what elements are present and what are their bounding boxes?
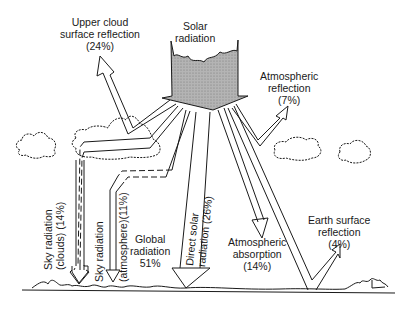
label-line: radiation bbox=[175, 32, 215, 44]
label-line: (7%) bbox=[260, 94, 318, 106]
cloud-left bbox=[16, 132, 55, 158]
sky-radiation-label: Sky radiation bbox=[93, 221, 105, 282]
label-line: Atmospheric bbox=[260, 70, 318, 82]
upper-cloud-reflection-label: Upper cloud surface reflection (24%) bbox=[60, 16, 140, 52]
label-line: Atmospheric bbox=[228, 236, 286, 248]
label-line: (clouds) (14%) bbox=[54, 202, 66, 270]
label-line: (24%) bbox=[60, 40, 140, 52]
label-line: Upper cloud bbox=[60, 16, 140, 28]
atmospheric-absorption-label: Atmospheric absorption (14%) bbox=[228, 236, 286, 272]
label-line: radiation bbox=[130, 245, 170, 257]
solar-radiation-label: Solar radiation bbox=[175, 20, 215, 44]
label-line: reflection bbox=[308, 226, 370, 238]
label-line: (14%) bbox=[228, 260, 286, 272]
label-line: absorption bbox=[228, 248, 286, 260]
label-line: (atmosphere)(11%) bbox=[117, 192, 129, 282]
sky-radiation-clouds-arrow bbox=[84, 106, 183, 152]
label-line: (4%) bbox=[308, 238, 370, 250]
cloud-right-1 bbox=[274, 137, 321, 160]
cloud-right-2 bbox=[338, 140, 370, 163]
atmospheric-reflection-arrow bbox=[232, 104, 288, 146]
sky-atmo-feed bbox=[166, 110, 190, 177]
label-line: Earth surface bbox=[308, 214, 370, 226]
label-line: Sky radiation bbox=[42, 202, 54, 270]
solar-radiation-arrow bbox=[162, 40, 248, 110]
label-line: Solar bbox=[175, 20, 215, 32]
atmospheric-absorption-arrow bbox=[218, 108, 268, 238]
label-line: 51% bbox=[130, 257, 170, 269]
global-radiation-label: Global radiation 51% bbox=[130, 233, 170, 269]
label-line: Global bbox=[130, 233, 170, 245]
sky-radiation-atmosphere-label: (atmosphere)(11%) bbox=[117, 192, 129, 282]
sky-radiation-clouds-label: Sky radiation (clouds) (14%) bbox=[42, 202, 66, 270]
earth-surface-reflection-label: Earth surface reflection (4%) bbox=[308, 214, 370, 250]
label-line: reflection bbox=[260, 82, 318, 94]
label-line: surface reflection bbox=[60, 28, 140, 40]
sky-radiation-atmosphere-dashed bbox=[118, 170, 172, 182]
atmospheric-reflection-label: Atmospheric reflection (7%) bbox=[260, 70, 318, 106]
sky-clouds-dashed bbox=[78, 142, 84, 265]
label-line: Sky radiation bbox=[93, 221, 105, 282]
